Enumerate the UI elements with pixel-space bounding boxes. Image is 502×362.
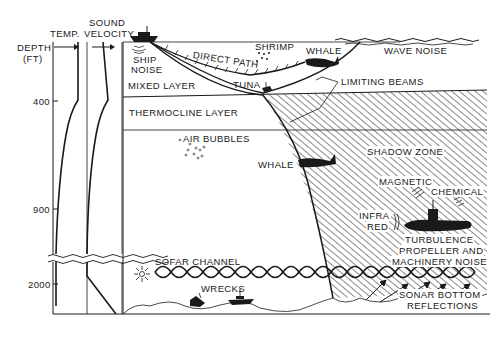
- wrecks-label: WRECKS: [201, 283, 245, 294]
- depth-axis-label-1: DEPTH: [17, 42, 51, 53]
- ship-noise-arcs-icon: [132, 46, 146, 54]
- tuna-label: TUNA: [233, 79, 260, 90]
- depth-axis-label-2: (FT): [23, 53, 43, 64]
- sound-source-icon: [134, 266, 150, 282]
- surface-wave-noise: [335, 39, 479, 42]
- mixed-layer-label: MIXED LAYER: [128, 80, 196, 91]
- column-label-sound-2: VELOCITY: [84, 28, 134, 39]
- air-bubbles-label: AIR BUBBLES: [183, 133, 250, 144]
- shadow-zone-label: SHADOW ZONE: [366, 146, 444, 157]
- column-label-sound-1: SOUND: [89, 17, 125, 28]
- sound-velocity-profile-line: [87, 42, 116, 314]
- surface-ship-icon: [130, 26, 158, 42]
- thermocline-layer-label: THERMOCLINE LAYER: [129, 107, 238, 118]
- sonar-bottom-label-1: SONAR BOTTOM: [398, 289, 482, 300]
- magnetic-label: MAGNETIC: [378, 176, 433, 187]
- wreck-ship-icon: [190, 293, 205, 307]
- wave-noise-label: WAVE NOISE: [384, 45, 447, 56]
- sonar-bottom-label-2: REFLECTIONS: [406, 300, 479, 311]
- propeller-label-2: MACHINERY NOISE: [391, 256, 488, 267]
- sofar-channel-label: SOFAR CHANNEL: [155, 256, 240, 267]
- chemical-label: CHEMICAL: [430, 186, 484, 197]
- limiting-beams-label: LIMITING BEAMS: [341, 76, 424, 87]
- shrimp-label: SHRIMP: [255, 41, 294, 52]
- depth-tick-400: 400: [33, 96, 50, 107]
- infrared-label-2: RED: [366, 221, 389, 232]
- axis-break-marks: [48, 255, 168, 264]
- profile-columns: [54, 42, 122, 314]
- depth-tick-900: 900: [33, 204, 50, 215]
- whale-top-icon: [305, 56, 339, 67]
- whale-top-label: WHALE: [306, 45, 342, 56]
- column-label-temp: TEMP.: [50, 28, 80, 39]
- temperature-profile-line: [56, 42, 78, 306]
- whale-mid-label: WHALE: [258, 159, 294, 170]
- propeller-label-1: PROPELLER AND: [398, 245, 484, 256]
- ship-noise-label-2: NOISE: [131, 64, 163, 75]
- depth-tick-2000: 2000: [28, 279, 51, 290]
- infrared-label-1: INFRA: [358, 210, 391, 221]
- turbulence-label: TURBULENCE: [404, 234, 474, 245]
